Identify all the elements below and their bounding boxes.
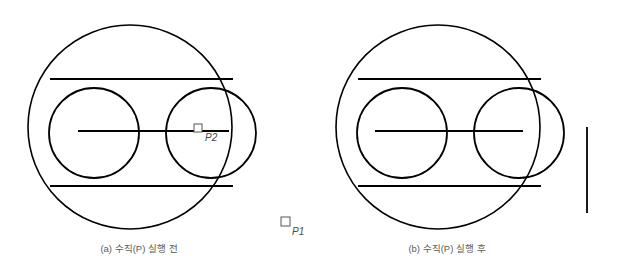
point-p2-label: P2 — [205, 132, 218, 143]
figure-root: P2 P1 (a) 수직(P) 실행 전 (b) 수직(P) 실행 후 — [0, 0, 621, 278]
panel-b-group: (b) 수직(P) 실행 후 — [336, 25, 587, 254]
panel-b-right-cylinder-cap — [474, 88, 564, 178]
panel-b-big-circle — [336, 25, 540, 229]
point-p1-label: P1 — [292, 226, 304, 237]
panel-b-left-cylinder-cap — [357, 88, 447, 178]
panel-a-left-cylinder-cap — [49, 88, 139, 178]
technical-drawing-canvas: P2 P1 (a) 수직(P) 실행 전 (b) 수직(P) 실행 후 — [0, 0, 621, 278]
panel-a-group: P2 P1 (a) 수직(P) 실행 전 — [28, 25, 304, 254]
point-p2-marker — [194, 124, 202, 132]
point-p1-marker — [281, 217, 290, 226]
panel-b-caption: (b) 수직(P) 실행 후 — [408, 243, 485, 254]
panel-a-caption: (a) 수직(P) 실행 전 — [100, 243, 177, 254]
